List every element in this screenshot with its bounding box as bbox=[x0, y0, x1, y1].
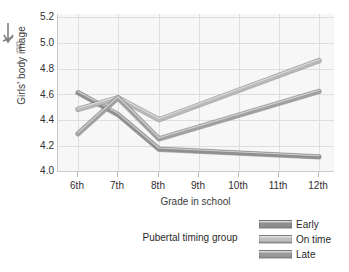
x-tick-label: 10th bbox=[218, 180, 258, 191]
legend-title: Pubertal timing group bbox=[128, 232, 252, 243]
legend-label: On time bbox=[296, 234, 331, 245]
y-tick-label: 4.6 bbox=[12, 90, 54, 100]
x-tick-label: 7th bbox=[97, 180, 137, 191]
legend-label: Early bbox=[296, 219, 319, 230]
legend-item-early[interactable]: Early bbox=[259, 219, 347, 230]
legend-swatch-late bbox=[259, 250, 292, 259]
y-tick-label: 5.0 bbox=[12, 38, 54, 48]
legend: Early On time Late bbox=[259, 219, 347, 264]
x-tick-label: 9th bbox=[178, 180, 218, 191]
y-tick-label: 4.8 bbox=[12, 64, 54, 74]
y-axis-tick-labels: 5.2 5.0 4.8 4.6 4.4 4.2 4.0 bbox=[8, 0, 54, 200]
x-tick-label: 11th bbox=[258, 180, 298, 191]
x-tick-label: 8th bbox=[138, 180, 178, 191]
legend-item-on-time[interactable]: On time bbox=[259, 234, 347, 245]
legend-swatch-early bbox=[259, 220, 292, 229]
y-tick-label: 4.4 bbox=[12, 115, 54, 125]
y-tick-label: 4.2 bbox=[12, 141, 54, 151]
legend-label: Late bbox=[296, 249, 315, 260]
legend-swatch-on-time bbox=[259, 235, 292, 244]
chart-figure: Girls' body image 5.2 5.0 4.8 4.6 4.4 4.… bbox=[0, 0, 349, 272]
x-tick-label: 12th bbox=[298, 180, 338, 191]
y-tick-label: 5.2 bbox=[12, 12, 54, 22]
x-axis-title: Grade in school bbox=[57, 196, 334, 207]
data-series-lines bbox=[58, 14, 334, 172]
legend-item-late[interactable]: Late bbox=[259, 249, 347, 260]
x-axis-tick-labels: 6th 7th 8th 9th 10th 11th 12th bbox=[0, 172, 349, 198]
x-tick-label: 6th bbox=[57, 180, 97, 191]
plot-area bbox=[57, 14, 334, 172]
